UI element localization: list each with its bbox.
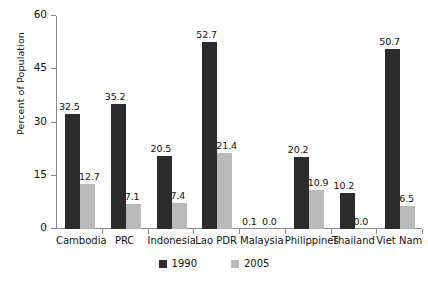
x-axis-tick — [376, 229, 377, 234]
bar-2005[interactable] — [400, 206, 415, 229]
legend-label: 1990 — [172, 258, 197, 269]
bar-group: 10.20.0 — [331, 16, 377, 229]
y-axis-tick-label: 0 — [40, 221, 47, 233]
x-axis-category-label: Viet Nam — [376, 235, 422, 246]
legend-label: 2005 — [244, 258, 269, 269]
bar-1990[interactable] — [202, 42, 217, 229]
bar-group: 50.76.5 — [376, 16, 422, 229]
bar-value-label-2005: 0.0 — [354, 216, 369, 227]
x-axis-category-label: Thailand — [331, 235, 377, 246]
bar-1990[interactable] — [385, 49, 400, 229]
bar-value-label-1990: 20.2 — [288, 144, 309, 155]
bar-value-label-2005: 6.5 — [399, 193, 414, 204]
bar-2005[interactable] — [80, 184, 95, 229]
bar-group: 52.721.4 — [193, 16, 239, 229]
y-axis-tick-label: 30 — [34, 115, 47, 127]
bar-value-label-2005: 7.1 — [125, 191, 140, 202]
x-axis-tick — [422, 229, 423, 234]
bar-2005[interactable] — [217, 153, 232, 229]
bar-group: 32.512.7 — [56, 16, 102, 229]
bar-value-label-1990: 20.5 — [151, 143, 172, 154]
chart-legend: 19902005 — [0, 258, 428, 269]
bar-value-label-1990: 52.7 — [196, 29, 217, 40]
bar-value-label-1990: 50.7 — [379, 36, 400, 47]
bar-chart: Percent of Population 01530456032.512.73… — [0, 0, 428, 283]
bar-2005[interactable] — [126, 204, 141, 229]
x-axis-category-label: Malaysia — [239, 235, 285, 246]
x-axis-category-label: Cambodia — [56, 235, 102, 246]
x-axis-category-label: PRC — [102, 235, 148, 246]
x-axis-tick — [239, 229, 240, 234]
bar-1990[interactable] — [340, 193, 355, 229]
bar-value-label-1990: 35.2 — [105, 91, 126, 102]
y-axis-tick-label: 45 — [34, 61, 47, 73]
bar-value-label-1990: 0.1 — [242, 216, 257, 227]
legend-swatch-icon — [159, 260, 167, 268]
y-axis-title: Percent of Population — [15, 19, 26, 149]
bar-value-label-2005: 21.4 — [216, 140, 237, 151]
bar-value-label-2005: 0.0 — [262, 216, 277, 227]
bar-group: 20.57.4 — [148, 16, 194, 229]
x-axis-category-label: Indonesia — [148, 235, 194, 246]
bar-1990[interactable] — [111, 104, 126, 229]
bar-value-label-2005: 12.7 — [79, 171, 100, 182]
x-axis-tick — [193, 229, 194, 234]
legend-swatch-icon — [231, 260, 239, 268]
bar-value-label-1990: 32.5 — [59, 101, 80, 112]
bar-group: 0.10.0 — [239, 16, 285, 229]
x-axis-tick — [331, 229, 332, 234]
bar-2005[interactable] — [172, 203, 187, 229]
bar-1990[interactable] — [65, 114, 80, 229]
bar-group: 35.27.1 — [102, 16, 148, 229]
x-axis-category-label: Philippines — [285, 235, 331, 246]
bar-value-label-1990: 10.2 — [334, 180, 355, 191]
bar-1990[interactable] — [294, 157, 309, 229]
bar-1990[interactable] — [157, 156, 172, 229]
x-axis-tick — [102, 229, 103, 234]
x-axis-tick — [148, 229, 149, 234]
legend-item[interactable]: 2005 — [231, 258, 269, 269]
bar-2005[interactable] — [309, 190, 324, 229]
x-axis-category-label: Lao PDR — [193, 235, 239, 246]
bar-group: 20.210.9 — [285, 16, 331, 229]
plot-area: 01530456032.512.735.27.120.57.452.721.40… — [56, 16, 422, 229]
bar-value-label-2005: 10.9 — [308, 177, 329, 188]
y-axis-tick-label: 15 — [34, 168, 47, 180]
bar-value-label-2005: 7.4 — [171, 190, 186, 201]
legend-item[interactable]: 1990 — [159, 258, 197, 269]
y-axis-tick-label: 60 — [34, 8, 47, 20]
x-axis-tick — [285, 229, 286, 234]
